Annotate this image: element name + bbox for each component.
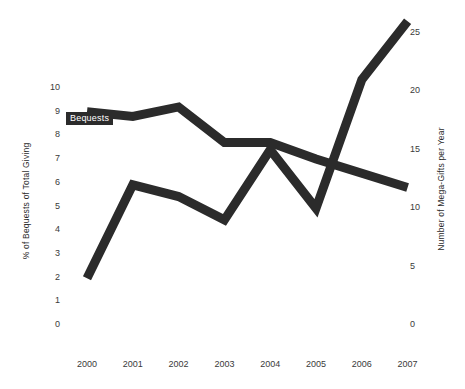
series-label-bequests: Bequests <box>66 112 113 125</box>
plot-area <box>0 0 465 389</box>
series-line-mega-gifts <box>87 21 408 278</box>
chart-container: % of Bequests of Total Giving Number of … <box>0 0 465 389</box>
series-line-bequests <box>87 107 408 188</box>
